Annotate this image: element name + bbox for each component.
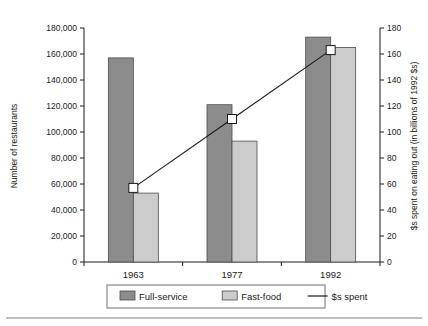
bar-fast-food-1977 [232,141,257,262]
y-axis-left-ticks: 020,00040,00060,00080,000100,000120,0001… [46,23,84,267]
y-axis-left-title: Number of restaurants [9,104,19,189]
dollars-spent-marker-1977 [228,115,237,124]
y-axis-left-tick-label: 100,000 [46,127,77,137]
x-axis-category-labels: 196319771992 [123,269,341,280]
y-axis-right-tick-label: 160 [387,49,401,59]
legend-label-fast-food: Fast-food [241,291,281,302]
chart-legend: Full-serviceFast-food$s spent [107,285,368,308]
x-axis-category-label: 1963 [123,269,144,280]
y-axis-right-title-group: $s spent on eating out (in billions of 1… [409,61,419,230]
y-axis-left-tick-label: 40,000 [51,205,77,215]
y-axis-right-tick-label: 0 [387,257,392,267]
y-axis-right-ticks: 020406080100120140160180 [380,23,401,267]
x-axis-category-label: 1992 [320,269,341,280]
bar-fast-food-1992 [331,48,356,263]
y-axis-left-tick-label: 80,000 [51,153,77,163]
legend-label-full-service: Full-service [139,291,188,302]
y-axis-right-tick-label: 40 [387,205,397,215]
y-axis-left-tick-label: 180,000 [46,23,77,33]
bars-layer [108,37,355,262]
legend-label--s-spent: $s spent [332,291,368,302]
legend-swatch-full-service [120,291,135,300]
y-axis-right-tick-label: 60 [387,179,397,189]
bar-fast-food-1963 [133,193,158,262]
y-axis-right-tick-label: 100 [387,127,401,137]
y-axis-left-tick-label: 0 [72,257,77,267]
bar-full-service-1963 [108,58,133,262]
y-axis-right-tick-label: 140 [387,75,401,85]
y-axis-right-tick-label: 120 [387,101,401,111]
y-axis-right-title: $s spent on eating out (in billions of 1… [409,61,419,230]
y-axis-right-tick-label: 180 [387,23,401,33]
y-axis-left-tick-label: 160,000 [46,49,77,59]
y-axis-left-tick-label: 140,000 [46,75,77,85]
y-axis-left-tick-label: 20,000 [51,231,77,241]
y-axis-left-tick-label: 120,000 [46,101,77,111]
x-axis-ticks [84,262,380,266]
y-axis-right-tick-label: 80 [387,153,397,163]
y-axis-left-title-group: Number of restaurants [9,104,19,189]
x-axis-category-label: 1977 [221,269,242,280]
y-axis-left-tick-label: 60,000 [51,179,77,189]
dollars-spent-marker-1992 [326,46,335,55]
bar-full-service-1992 [306,37,331,262]
dollars-spent-marker-1963 [129,183,138,192]
chart-svg: Number of restaurants $s spent on eating… [0,0,428,326]
y-axis-right-tick-label: 20 [387,231,397,241]
chart-container: Number of restaurants $s spent on eating… [0,0,428,326]
legend-swatch-fast-food [222,291,237,300]
